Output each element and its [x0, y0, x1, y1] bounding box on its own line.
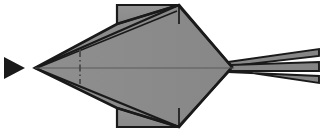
origami-diagram: Origami folded model - top view — [0, 0, 324, 133]
origami-figure-container: Origami folded model - top view — [0, 0, 324, 133]
